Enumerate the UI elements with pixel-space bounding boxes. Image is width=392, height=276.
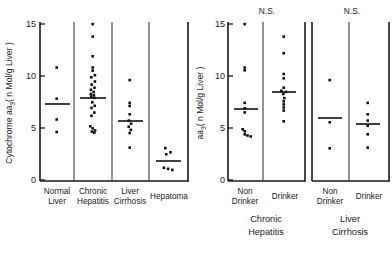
data-point	[366, 113, 369, 116]
data-point	[130, 129, 133, 132]
data-point	[91, 130, 94, 133]
data-point	[282, 103, 285, 106]
data-point	[90, 89, 93, 92]
group-hepatoma-points	[156, 147, 181, 171]
data-point	[94, 80, 97, 83]
data-point	[91, 23, 94, 26]
data-point	[91, 101, 94, 104]
cat-label-ch-drinker: Drinker	[272, 192, 299, 201]
data-point	[366, 119, 369, 122]
data-point	[243, 130, 246, 133]
data-point	[89, 125, 92, 128]
data-point	[128, 113, 131, 116]
data-point	[169, 151, 172, 154]
data-point	[282, 86, 285, 89]
group-chronic-hepatitis-points	[80, 23, 106, 134]
right-group-labels: Chronic Hepatitis Liver Cirrhosis	[248, 214, 368, 237]
tick-label-15-left: 15	[26, 19, 36, 29]
data-point	[282, 106, 285, 109]
data-point	[93, 131, 96, 134]
data-point	[243, 111, 246, 114]
data-point	[164, 147, 167, 150]
data-point	[55, 131, 58, 134]
tick-label-10-left: 10	[26, 71, 36, 81]
data-point	[94, 74, 97, 77]
data-point	[167, 168, 170, 171]
data-point	[366, 146, 369, 149]
data-point	[328, 147, 331, 150]
data-point	[90, 115, 93, 118]
right-y-axis-title: aa3( n Mol/g Liver )	[195, 66, 207, 139]
ylabel-right-units: ( n Mol/g Liver )	[195, 66, 205, 126]
scatter-figure: 15 10 5 0	[0, 0, 392, 276]
cat-label-lc-drinker: Drinker	[356, 192, 383, 201]
ylabel-left-main: Cytochrome aa	[4, 105, 14, 163]
figure-svg: 15 10 5 0	[0, 0, 392, 276]
data-point	[243, 102, 246, 105]
data-point	[91, 69, 94, 72]
data-point	[93, 105, 96, 108]
data-point	[91, 127, 94, 130]
group-label-chronic-hepatitis-2: Hepatitis	[248, 227, 284, 237]
data-point	[90, 107, 93, 110]
group-label-liver-cirrhosis-1: Liver	[340, 214, 360, 224]
tick-label-15-right: 15	[215, 19, 225, 29]
data-point	[366, 102, 369, 105]
tick-label-10-right: 10	[215, 71, 225, 81]
tick-label-0-left: 0	[31, 175, 36, 185]
data-point	[55, 118, 58, 121]
data-point	[249, 135, 252, 138]
svg-text:aa3( n Mol/g Liver ): aa3( n Mol/g Liver )	[195, 66, 207, 139]
data-point	[283, 97, 286, 100]
data-point	[282, 35, 285, 38]
data-point	[93, 94, 96, 97]
data-point	[163, 167, 166, 170]
data-point	[282, 100, 285, 103]
ns-label-chronic-hepatitis: N.S.	[259, 6, 275, 16]
data-point	[282, 52, 285, 55]
data-point	[91, 66, 94, 69]
data-point	[128, 105, 131, 108]
data-point	[366, 125, 369, 128]
group-label-chronic-hepatitis-1: Chronic	[250, 214, 282, 224]
data-point	[282, 109, 285, 112]
data-point	[90, 93, 93, 96]
group-lc-drinker-points	[356, 102, 380, 149]
data-point	[165, 153, 168, 156]
cat-label-normal-liver-2: Liver	[48, 197, 66, 206]
cat-label-liver-cirrhosis-1: Liver	[121, 187, 139, 196]
data-point	[55, 97, 58, 100]
data-point	[243, 69, 246, 72]
data-point	[171, 169, 174, 172]
cat-label-lc-nondrinker-1: Non	[322, 187, 337, 196]
left-panel: 15 10 5 0	[4, 19, 189, 206]
cat-label-lc-nondrinker-2: Drinker	[317, 197, 344, 206]
svg-text:Cytochrome aa3( n Mol/g Liver: Cytochrome aa3( n Mol/g Liver )	[4, 42, 16, 164]
right-category-labels: Non Drinker Drinker Non Drinker Drinker	[232, 187, 383, 206]
data-point	[366, 133, 369, 136]
data-point	[243, 23, 246, 26]
data-point	[90, 83, 93, 86]
data-point	[328, 79, 331, 82]
data-point	[92, 91, 95, 94]
cat-label-liver-cirrhosis-2: Cirrhosis	[114, 197, 146, 206]
ylabel-left-units: ( n Mol/g Liver )	[4, 42, 14, 102]
tick-label-5-left: 5	[31, 123, 36, 133]
data-point	[128, 102, 131, 105]
data-point	[127, 126, 130, 129]
ns-label-liver-cirrhosis: N.S.	[344, 6, 360, 16]
data-point	[128, 132, 131, 135]
data-point	[282, 93, 285, 96]
group-liver-cirrhosis-points	[118, 79, 143, 149]
group-lc-nondrinker-points	[318, 79, 342, 150]
data-point	[91, 35, 94, 38]
cat-label-ch-nondrinker-2: Drinker	[232, 197, 259, 206]
data-point	[91, 55, 94, 58]
right-panel: 15 10 5 0 N.S. N.S.	[195, 6, 390, 237]
cat-label-normal-liver-1: Normal	[44, 187, 71, 196]
data-point	[93, 111, 96, 114]
data-point	[282, 77, 285, 80]
left-category-labels: Normal Liver Chronic Hepatitis Liver Cir…	[44, 187, 189, 206]
tick-label-0-right: 0	[220, 175, 225, 185]
ylabel-right-main: aa	[195, 130, 205, 140]
